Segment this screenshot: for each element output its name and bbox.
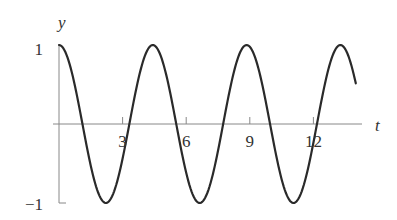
x-axis-label: t xyxy=(375,116,381,135)
y-tick-label-1: 1 xyxy=(35,40,44,59)
x-tick-label: 12 xyxy=(305,132,322,151)
y-tick-label-neg1: −1 xyxy=(25,195,43,214)
x-tick-label: 3 xyxy=(118,132,127,151)
chart: y t 1 −1 36912 xyxy=(0,0,397,220)
x-tick-label: 6 xyxy=(182,132,191,151)
x-axis xyxy=(53,117,362,124)
x-ticks xyxy=(123,117,314,124)
x-tick-label: 9 xyxy=(246,132,255,151)
y-axis-label: y xyxy=(56,13,66,32)
